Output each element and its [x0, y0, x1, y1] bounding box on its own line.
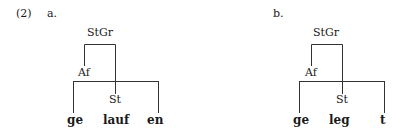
tree-a-lines	[74, 45, 159, 114]
tree-branches	[0, 0, 400, 136]
tree-b-lines	[300, 45, 385, 114]
